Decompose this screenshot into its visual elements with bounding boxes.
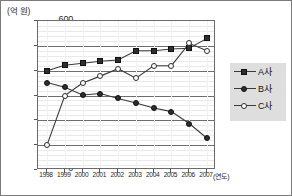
- data-point-B사-2003: [133, 100, 139, 106]
- data-point-A사-2003: [133, 48, 139, 54]
- legend-item-B사: B사: [230, 80, 286, 97]
- legend-label: C사: [258, 99, 272, 112]
- x-axis-tick: [188, 169, 189, 173]
- data-point-A사-2005: [168, 46, 174, 52]
- data-point-B사-2000: [80, 92, 86, 98]
- data-point-A사-2000: [80, 60, 86, 66]
- data-point-C사-2003: [133, 75, 139, 81]
- data-point-C사-2002: [115, 66, 121, 72]
- data-point-A사-1998: [44, 68, 50, 74]
- data-point-B사-2006: [186, 121, 192, 127]
- series-line-A사: [47, 38, 207, 70]
- y-axis-tick: [34, 169, 37, 170]
- data-point-C사-1999: [62, 93, 68, 99]
- legend-item-C사: C사: [230, 97, 286, 114]
- legend-item-A사: A사: [230, 63, 286, 80]
- data-point-A사-2002: [115, 57, 121, 63]
- x-axis-tick: [46, 169, 47, 173]
- data-point-B사-1998: [44, 80, 50, 86]
- data-point-C사-2004: [151, 63, 157, 69]
- x-axis-tick: [117, 169, 118, 173]
- x-axis-tick: [135, 169, 136, 173]
- legend-label: B사: [258, 82, 272, 95]
- data-point-A사-1999: [62, 62, 68, 68]
- data-point-B사-2001: [97, 91, 103, 97]
- legend-marker-filled-circle-icon: [234, 83, 256, 94]
- data-point-C사-2000: [80, 80, 86, 86]
- x-axis-tick: [99, 169, 100, 173]
- data-point-A사-2006: [186, 45, 192, 51]
- data-point-B사-2004: [151, 105, 157, 111]
- legend-marker-filled-square-icon: [234, 66, 256, 77]
- legend-label: A사: [258, 65, 272, 78]
- data-point-A사-2004: [151, 48, 157, 54]
- data-point-A사-2001: [97, 58, 103, 64]
- series-line-C사: [47, 43, 207, 145]
- x-axis-tick: [153, 169, 154, 173]
- x-axis-tick: [82, 169, 83, 173]
- plot-area: [37, 20, 215, 169]
- chart-legend: A사B사C사: [230, 63, 286, 121]
- x-axis-tick: [64, 169, 65, 173]
- legend-marker-open-circle-icon: [234, 100, 256, 111]
- data-point-C사-2007: [204, 48, 210, 54]
- x-axis-tick: [206, 169, 207, 173]
- data-point-A사-2007: [204, 35, 210, 41]
- y-axis-unit-label: (억 원): [7, 4, 30, 16]
- x-axis-tick: [170, 169, 171, 173]
- x-axis-unit-label: (연도): [213, 171, 230, 181]
- chart-figure: (억 원) 6005004003002001000 19981999200020…: [0, 0, 292, 196]
